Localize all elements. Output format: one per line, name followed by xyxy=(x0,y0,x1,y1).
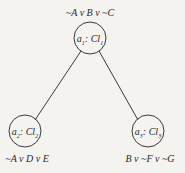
clause-set-name: Cl xyxy=(149,126,158,137)
clause-a3: B v ~F v ~G xyxy=(125,153,174,164)
tree-diagram: ~A v B v ~C a1: Cl1 a2: Cl2 ~A v D v E a… xyxy=(0,0,185,173)
clause-set-index: 2 xyxy=(35,133,38,139)
edge-a1-a2 xyxy=(35,51,81,120)
clause-a2: ~A v D v E xyxy=(5,153,49,164)
diagram-edges xyxy=(0,0,185,173)
clause-a1: ~A v B v ~C xyxy=(66,7,114,18)
separator: : xyxy=(143,126,146,137)
clause-set-name: Cl xyxy=(26,126,35,137)
separator: : xyxy=(20,126,23,137)
node-label-a1: a1: Cl1 xyxy=(77,33,103,46)
node-label-a3: a3: Cl3 xyxy=(135,126,161,139)
edge-a1-a3 xyxy=(99,51,138,120)
clause-set-name: Cl xyxy=(91,33,100,44)
separator: : xyxy=(85,33,88,44)
node-label-a2: a2: Cl2 xyxy=(12,126,38,139)
clause-set-index: 3 xyxy=(158,133,161,139)
clause-set-index: 1 xyxy=(100,40,103,46)
